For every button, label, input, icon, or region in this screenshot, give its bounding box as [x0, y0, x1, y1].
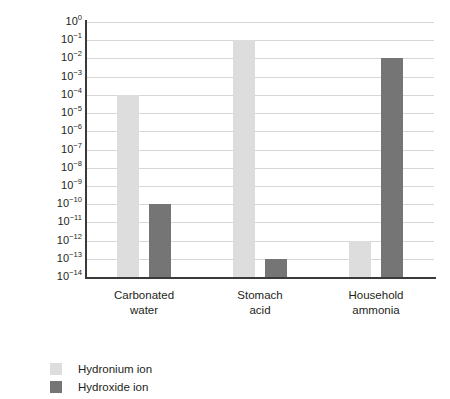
y-axis-tick-label: 10−6 [36, 125, 82, 136]
y-axis-tick-label: 10−5 [36, 107, 82, 118]
y-axis-tick-label: 10−9 [36, 180, 82, 191]
x-axis-category-label-line: acid [200, 303, 320, 318]
y-axis-tick-label: 10−2 [36, 52, 82, 63]
x-axis-category-label-line: Household [316, 288, 436, 303]
y-axis-tick-label: 10−1 [36, 34, 82, 45]
legend-label: Hydronium ion [78, 363, 152, 375]
bar-hydronium [349, 241, 371, 277]
legend-swatch-hydroxide [50, 381, 62, 393]
y-axis-tick-label: 10−4 [36, 89, 82, 100]
y-axis-tick-label: 10−13 [36, 253, 82, 264]
bar-hydronium [117, 95, 139, 277]
bar-hydroxide [149, 204, 171, 277]
x-axis-category-label-line: ammonia [316, 303, 436, 318]
x-axis-line [86, 277, 436, 279]
x-axis-category-label: Householdammonia [316, 288, 436, 317]
y-axis-tick-label: 10−7 [36, 144, 82, 155]
y-axis-tick-label: 10−8 [36, 162, 82, 173]
y-axis-tick-label: 10−12 [36, 235, 82, 246]
x-axis-category-label: Carbonatedwater [84, 288, 204, 317]
x-axis-category-label: Stomachacid [200, 288, 320, 317]
legend-label: Hydroxide ion [78, 381, 148, 393]
y-axis-tick-labels: 10010−110−210−310−410−510−610−710−810−91… [30, 0, 82, 399]
legend-item: Hydronium ion [50, 360, 152, 378]
bar-hydronium [233, 40, 255, 277]
bar-hydroxide [265, 259, 287, 277]
bars-layer [86, 22, 434, 277]
legend-swatch-hydronium [50, 363, 62, 375]
y-axis-tick-label: 10−10 [36, 198, 82, 209]
y-axis-tick-label: 10−11 [36, 216, 82, 227]
y-axis-tick-label: 100 [36, 16, 82, 27]
chart-legend: Hydronium ionHydroxide ion [50, 360, 152, 396]
x-axis-category-label-line: water [84, 303, 204, 318]
y-axis-tick-label: 10−3 [36, 71, 82, 82]
x-axis-category-label-line: Stomach [200, 288, 320, 303]
x-axis-category-label-line: Carbonated [84, 288, 204, 303]
legend-item: Hydroxide ion [50, 378, 152, 396]
bar-hydroxide [381, 58, 403, 277]
y-axis-tick-label: 10−14 [36, 271, 82, 282]
chart-figure: Concentration (M) 10010−110−210−310−410−… [0, 0, 450, 399]
